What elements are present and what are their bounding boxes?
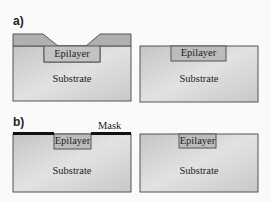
panel-a-left xyxy=(13,34,131,101)
epilayer-label: Epilayer xyxy=(179,135,216,146)
mask-left xyxy=(13,132,54,135)
substrate-label: Substrate xyxy=(13,73,131,84)
epilayer-label: Epilayer xyxy=(54,135,91,146)
epilayer-label: Epilayer xyxy=(44,48,100,59)
substrate-label: Substrate xyxy=(140,165,258,176)
mask-label: Mask xyxy=(98,120,121,131)
mask-right xyxy=(91,132,131,135)
substrate-label: Substrate xyxy=(13,165,131,176)
panel-b-label: b) xyxy=(13,115,24,129)
substrate-label: Substrate xyxy=(140,73,258,84)
epilayer-label: Epilayer xyxy=(171,47,226,58)
panel-a-label: a) xyxy=(13,14,24,28)
